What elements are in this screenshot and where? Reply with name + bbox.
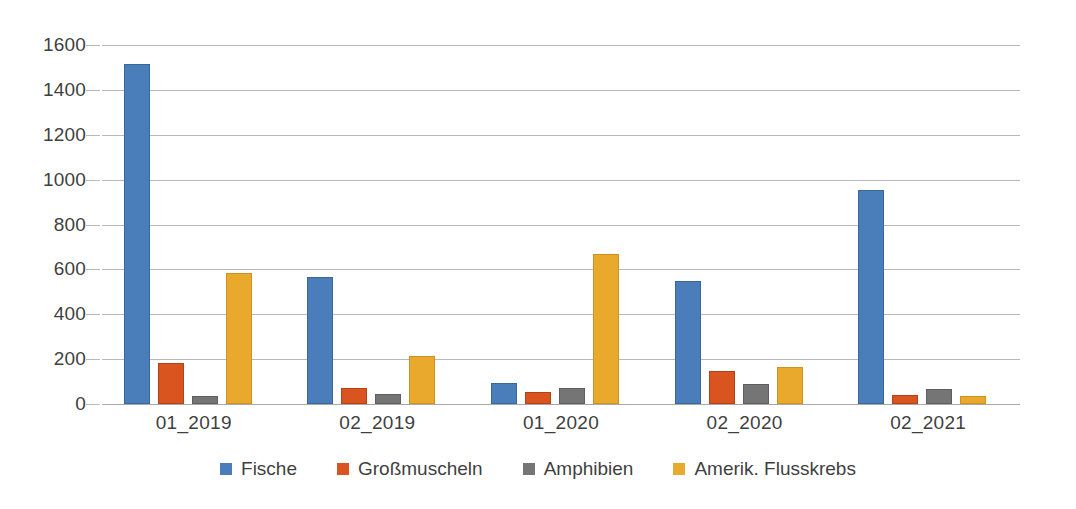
y-axis-tick-label: 0 (75, 393, 86, 415)
bar-gro-muscheln-01_2020[interactable] (525, 392, 551, 404)
gridline (102, 404, 1020, 405)
bar-fische-02_2019[interactable] (307, 277, 333, 404)
bar-fische-01_2020[interactable] (491, 383, 517, 404)
bar-group (836, 45, 1020, 404)
y-axis-tick-label: 600 (54, 258, 86, 280)
legend-item-amerik-flusskrebs[interactable]: Amerik. Flusskrebs (673, 458, 856, 480)
y-axis-tick-label: 1200 (43, 124, 86, 146)
legend-item-gro-muscheln[interactable]: Großmuscheln (337, 458, 483, 480)
bar-chart: 02004006008001000120014001600 01_201902_… (0, 0, 1076, 509)
bar-gro-muscheln-01_2019[interactable] (158, 363, 184, 405)
y-axis-tick (86, 135, 100, 136)
x-axis: 01_201902_201901_202002_202002_2021 (102, 412, 1020, 444)
chart-legend: FischeGroßmuschelnAmphibienAmerik. Fluss… (0, 458, 1076, 480)
legend-item-fische[interactable]: Fische (220, 458, 297, 480)
bar-amphibien-02_2021[interactable] (926, 389, 952, 404)
x-axis-tick-label: 02_2021 (890, 412, 966, 434)
x-axis-tick-label: 01_2020 (523, 412, 599, 434)
bar-amerik-flusskrebs-02_2019[interactable] (409, 356, 435, 404)
bar-amphibien-02_2020[interactable] (743, 384, 769, 404)
y-axis-tick-label: 1600 (43, 34, 86, 56)
bar-fische-02_2020[interactable] (675, 281, 701, 404)
y-axis-tick (86, 404, 100, 405)
y-axis-tick (86, 359, 100, 360)
x-axis-tick-label: 02_2020 (707, 412, 783, 434)
y-axis: 02004006008001000120014001600 (0, 45, 86, 404)
bar-amphibien-01_2019[interactable] (192, 396, 218, 404)
bar-amerik-flusskrebs-01_2020[interactable] (593, 254, 619, 404)
legend-label: Amerik. Flusskrebs (694, 458, 856, 480)
legend-label: Fische (241, 458, 297, 480)
bar-group (286, 45, 470, 404)
legend-swatch-icon (337, 463, 349, 475)
bar-amerik-flusskrebs-02_2021[interactable] (960, 396, 986, 404)
y-axis-tick (86, 90, 100, 91)
legend-swatch-icon (220, 463, 232, 475)
legend-label: Amphibien (544, 458, 634, 480)
y-axis-tick (86, 45, 100, 46)
x-axis-tick-label: 02_2019 (339, 412, 415, 434)
bar-group (469, 45, 653, 404)
y-axis-tick (86, 180, 100, 181)
legend-item-amphibien[interactable]: Amphibien (523, 458, 634, 480)
bar-amerik-flusskrebs-02_2020[interactable] (777, 367, 803, 404)
bar-gro-muscheln-02_2020[interactable] (709, 371, 735, 404)
y-axis-tick (86, 314, 100, 315)
bar-amphibien-02_2019[interactable] (375, 394, 401, 404)
y-axis-tick (86, 269, 100, 270)
bar-group (102, 45, 286, 404)
y-axis-tick (86, 225, 100, 226)
legend-swatch-icon (673, 463, 685, 475)
y-axis-tick-label: 200 (54, 348, 86, 370)
bar-group (653, 45, 837, 404)
x-axis-tick-label: 01_2019 (156, 412, 232, 434)
y-axis-tick-label: 1400 (43, 79, 86, 101)
legend-swatch-icon (523, 463, 535, 475)
bar-fische-01_2019[interactable] (124, 64, 150, 404)
bar-fische-02_2021[interactable] (858, 190, 884, 404)
y-axis-tick-label: 400 (54, 303, 86, 325)
bar-gro-muscheln-02_2021[interactable] (892, 395, 918, 404)
bar-amphibien-01_2020[interactable] (559, 388, 585, 404)
legend-label: Großmuscheln (358, 458, 483, 480)
y-axis-tick-label: 800 (54, 214, 86, 236)
bars-layer (102, 45, 1020, 404)
y-axis-tick-label: 1000 (43, 169, 86, 191)
bar-gro-muscheln-02_2019[interactable] (341, 388, 367, 404)
bar-amerik-flusskrebs-01_2019[interactable] (226, 273, 252, 404)
